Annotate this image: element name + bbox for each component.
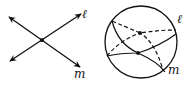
line-l <box>10 14 81 61</box>
diagram-canvas: ℓ m ℓ m <box>0 0 193 85</box>
plane-lines-figure: ℓ m <box>9 7 87 81</box>
label-m-right: m <box>168 63 179 77</box>
label-m-left: m <box>74 67 85 81</box>
intersection-point-upper <box>138 31 142 35</box>
sphere-figure: ℓ m <box>105 6 182 78</box>
sphere-outline <box>105 6 177 78</box>
great-circle-l-front <box>112 21 165 72</box>
label-l-left: ℓ <box>82 7 87 21</box>
label-l-right: ℓ <box>177 12 182 26</box>
great-circle-l-back <box>112 21 176 33</box>
intersection-point <box>40 38 44 42</box>
line-m <box>9 17 80 67</box>
intersection-point-lower <box>136 51 140 55</box>
